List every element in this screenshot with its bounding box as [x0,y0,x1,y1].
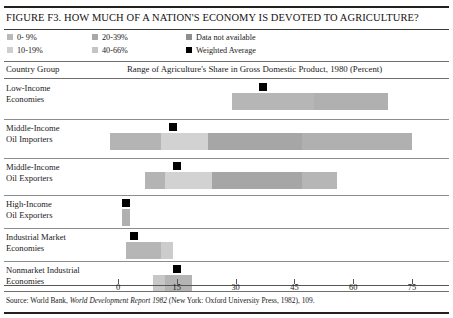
legend-swatch-0-9-icon [7,34,13,40]
chart-plot-area: Low-IncomeEconomiesMiddle-IncomeOil Impo… [0,79,453,279]
weighted-average-marker [122,199,130,207]
column-header-range: Range of Agriculture's Share in Gross Do… [127,64,382,74]
legend-label-data-not-available: Data not available [196,33,256,42]
top-border-rule [4,6,449,8]
source-divider-rule [4,291,449,292]
legend-swatch-10-19-icon [7,47,13,53]
range-bar-segment [302,133,412,150]
legend-item-20-39: 20-39% [92,33,128,43]
legend-swatch-data-not-available-icon [186,34,192,40]
row-label: Middle-IncomeOil Exporters [6,162,59,183]
row-label-line2: Oil Exporters [6,173,59,184]
row-label-line1: High-Income [6,199,53,210]
legend-item-weighted-average: Weighted Average [186,46,256,56]
weighted-average-marker [169,123,177,131]
row-label-line2: Oil Importers [6,134,59,145]
range-bar-segment [110,133,161,150]
source-title: World Development Report 1982 [70,296,167,305]
legend-item-40-66: 40-66% [92,46,128,56]
range-bar-segment [161,242,173,259]
figure-page: { "figure": { "title": "FIGURE F3. HOW M… [0,0,453,318]
range-bar-segment [122,209,130,226]
range-bar-segment [145,172,165,189]
legend-label-20-39: 20-39% [102,33,128,42]
legend-swatch-40-66-icon [92,47,98,53]
weighted-average-marker [173,265,181,273]
legend-label-0-9: 0- 9% [17,33,37,42]
row-separator [4,261,449,262]
row-label-line1: Middle-Income [6,123,59,134]
range-bar-segment [161,133,208,150]
legend-item-10-19: 10-19% [7,46,43,56]
range-bar-segment [212,172,302,189]
legend: 0- 9% 10-19% 20-39% 40-66% Data not avai… [4,33,449,59]
bottom-border-rule [4,312,449,314]
row-label: Nonmarket IndustrialEconomies [6,265,80,286]
range-bar-segment [208,133,302,150]
range-bar [145,172,337,189]
range-bar [110,133,412,150]
row-separator [4,228,449,229]
weighted-average-marker [130,232,138,240]
row-label-line2: Oil Exporters [6,210,53,221]
source-prefix: Source: World Bank, [6,296,70,305]
row-label-line1: Nonmarket Industrial [6,265,80,276]
source-note: Source: World Bank, World Development Re… [6,296,315,305]
range-bar-segment [165,172,212,189]
row-label-line1: Low-Income [6,83,50,94]
row-label-line2: Economies [6,243,66,254]
legend-swatch-weighted-average-icon [186,47,192,53]
range-bar [122,209,130,226]
legend-swatch-20-39-icon [92,34,98,40]
row-label: Industrial MarketEconomies [6,232,66,253]
weighted-average-marker [259,83,267,91]
row-label: Low-IncomeEconomies [6,83,50,104]
legend-label-weighted-average: Weighted Average [196,46,256,55]
row-label: Middle-IncomeOil Importers [6,123,59,144]
column-header-country-group: Country Group [6,64,60,74]
range-bar-segment [302,172,337,189]
range-bar-segment [314,93,388,110]
row-separator [4,158,449,159]
range-bar-segment [232,93,314,110]
row-separator [4,119,449,120]
legend-item-data-not-available: Data not available [186,33,256,43]
weighted-average-marker [173,162,181,170]
row-label-line2: Economies [6,94,50,105]
legend-label-40-66: 40-66% [102,46,128,55]
range-bar-segment [153,275,165,292]
row-label: High-IncomeOil Exporters [6,199,53,220]
row-label-line1: Industrial Market [6,232,66,243]
figure-title: FIGURE F3. HOW MUCH OF A NATION'S ECONOM… [6,12,419,23]
row-separator [4,195,449,196]
title-divider-rule [4,29,449,30]
header-top-rule [4,61,449,62]
range-bar-segment [126,242,161,259]
range-bar [232,93,389,110]
range-bar [126,242,173,259]
source-suffix: (New York: Oxford University Press, 1982… [167,296,315,305]
legend-label-10-19: 10-19% [17,46,43,55]
legend-item-0-9: 0- 9% [7,33,37,43]
row-label-line1: Middle-Income [6,162,59,173]
